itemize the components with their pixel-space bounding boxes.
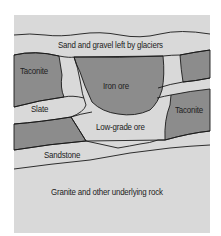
taconite-left-label: Taconite [20,66,48,76]
cross-section-diagram [0,0,221,236]
sandstone-label: Sandstone [44,150,80,160]
taconite-right-label: Taconite [175,105,203,115]
slate-label: Slate [31,104,48,114]
iron-ore-label: Iron ore [103,81,129,91]
taconite-right-upper-region [180,50,210,82]
glacier-label: Sand and gravel left by glaciers [58,40,163,50]
low-grade-ore-label: Low-grade ore [96,122,145,132]
granite-label: Granite and other underlying rock [51,187,163,197]
